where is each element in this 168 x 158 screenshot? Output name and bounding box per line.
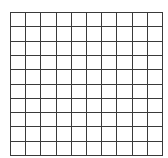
- grid-cell: [57, 13, 72, 27]
- grid-cell: [11, 85, 26, 99]
- grid-cell: [117, 99, 132, 113]
- grid-cell: [102, 127, 117, 141]
- grid-cell: [87, 142, 102, 156]
- grid-cell: [26, 70, 41, 84]
- grid-cell: [87, 113, 102, 127]
- grid-cell: [87, 99, 102, 113]
- grid-cell: [26, 56, 41, 70]
- grid-cell: [133, 56, 148, 70]
- grid-cell: [117, 85, 132, 99]
- grid-cell: [117, 70, 132, 84]
- grid-cell: [11, 56, 26, 70]
- grid-cell: [133, 113, 148, 127]
- grid-cell: [41, 127, 56, 141]
- grid-cell: [133, 99, 148, 113]
- grid-cell: [87, 13, 102, 27]
- grid-cell: [102, 56, 117, 70]
- grid-cell: [26, 13, 41, 27]
- grid-cell: [117, 27, 132, 41]
- grid-cell: [26, 142, 41, 156]
- grid-cell: [11, 142, 26, 156]
- grid-cell: [57, 127, 72, 141]
- grid-cell: [72, 113, 87, 127]
- grid: [10, 12, 163, 156]
- grid-cell: [26, 113, 41, 127]
- grid-cell: [102, 85, 117, 99]
- grid-cell: [57, 142, 72, 156]
- grid-cell: [148, 70, 163, 84]
- grid-cell: [41, 56, 56, 70]
- grid-cell: [133, 13, 148, 27]
- grid-cell: [41, 113, 56, 127]
- grid-cell: [133, 142, 148, 156]
- grid-cell: [148, 56, 163, 70]
- grid-cell: [57, 70, 72, 84]
- grid-cell: [41, 27, 56, 41]
- grid-cell: [11, 42, 26, 56]
- grid-cell: [57, 56, 72, 70]
- grid-cell: [11, 27, 26, 41]
- grid-cell: [26, 27, 41, 41]
- grid-cell: [72, 70, 87, 84]
- grid-cell: [148, 99, 163, 113]
- grid-cell: [26, 85, 41, 99]
- grid-cell: [41, 42, 56, 56]
- grid-cell: [41, 13, 56, 27]
- grid-cell: [11, 70, 26, 84]
- grid-cell: [41, 85, 56, 99]
- grid-cell: [41, 142, 56, 156]
- grid-cell: [102, 113, 117, 127]
- grid-cell: [87, 42, 102, 56]
- grid-cell: [117, 42, 132, 56]
- grid-cell: [26, 99, 41, 113]
- grid-cell: [72, 42, 87, 56]
- grid-cell: [102, 13, 117, 27]
- grid-cell: [148, 127, 163, 141]
- grid-cell: [117, 56, 132, 70]
- grid-cell: [117, 127, 132, 141]
- grid-cell: [148, 27, 163, 41]
- grid-cell: [87, 127, 102, 141]
- grid-cell: [72, 142, 87, 156]
- grid-cell: [87, 85, 102, 99]
- grid-cell: [11, 113, 26, 127]
- grid-cell: [72, 27, 87, 41]
- grid-cell: [72, 13, 87, 27]
- grid-cell: [117, 142, 132, 156]
- grid-cell: [87, 27, 102, 41]
- grid-cell: [11, 127, 26, 141]
- grid-cell: [72, 85, 87, 99]
- grid-cell: [133, 127, 148, 141]
- grid-cell: [133, 27, 148, 41]
- grid-cell: [57, 85, 72, 99]
- grid-cell: [102, 27, 117, 41]
- grid-cell: [57, 99, 72, 113]
- grid-cell: [87, 56, 102, 70]
- grid-cell: [41, 99, 56, 113]
- grid-cell: [133, 70, 148, 84]
- grid-cell: [117, 13, 132, 27]
- grid-cell: [102, 42, 117, 56]
- grid-cell: [148, 85, 163, 99]
- grid-cell: [133, 85, 148, 99]
- grid-cell: [72, 99, 87, 113]
- grid-cell: [26, 127, 41, 141]
- grid-cell: [148, 113, 163, 127]
- grid-cell: [57, 27, 72, 41]
- grid-cell: [72, 127, 87, 141]
- grid-cell: [117, 113, 132, 127]
- grid-cell: [133, 42, 148, 56]
- grid-cell: [102, 142, 117, 156]
- grid-cell: [11, 99, 26, 113]
- grid-cell: [57, 42, 72, 56]
- grid-cell: [148, 142, 163, 156]
- grid-cell: [102, 70, 117, 84]
- grid-cell: [148, 13, 163, 27]
- grid-cell: [11, 13, 26, 27]
- grid-cell: [87, 70, 102, 84]
- grid-cell: [148, 42, 163, 56]
- canvas: [0, 0, 168, 158]
- grid-cell: [41, 70, 56, 84]
- grid-cell: [72, 56, 87, 70]
- grid-cell: [57, 113, 72, 127]
